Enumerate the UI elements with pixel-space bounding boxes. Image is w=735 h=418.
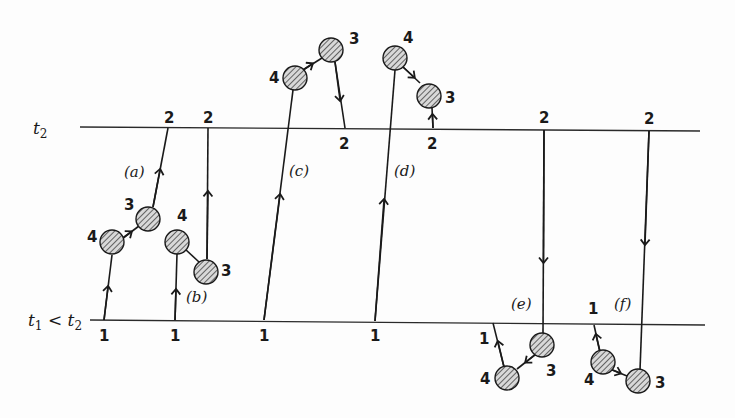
diagram-label-e: (e) [511,295,532,313]
vertex-4-label: 4 [403,29,413,47]
t1-lt-t2-label: t1 < t2 [28,310,82,333]
vertex-4-blob [165,230,189,254]
vertex-3-label: 3 [546,362,556,380]
vertex-4-blob [100,230,124,254]
vertex-4-blob [591,350,615,374]
diagram-label-f: (f) [614,295,631,313]
vertex-3-blob [319,38,343,62]
vertex-4-blob [495,366,519,390]
vertex-3-label: 3 [349,30,359,48]
diagram-c: 4 3 2 1 (c) [259,30,359,345]
endpoint-1-label: 1 [259,327,269,345]
diagram-e: 4 3 2 1 (e) [479,109,556,390]
diagram-f: 4 3 2 1 (f) [584,110,665,393]
diagram-label-c: (c) [289,162,309,180]
feynman-diagram-figure: t2 t1 < t2 4 3 2 1 (a) 4 3 2 1 (b) [0,0,735,418]
vertex-4-label: 4 [177,207,187,225]
vertex-4-label: 4 [269,69,279,87]
diagram-canvas: t2 t1 < t2 4 3 2 1 (a) 4 3 2 1 (b) [0,0,735,418]
endpoint-2-label: 2 [339,135,349,153]
endpoint-1-label: 1 [479,330,489,348]
vertex-4-blob [283,66,307,90]
endpoint-1-label: 1 [370,327,380,345]
vertex-4-blob [383,46,407,70]
endpoint-2-label: 2 [539,109,549,127]
diagram-label-a: (a) [124,163,145,181]
vertex-3-blob [194,260,218,284]
diagram-a: 4 3 2 1 (a) [87,109,174,345]
t2-label: t2 [33,118,47,141]
diagram-d: 4 3 2 1 (d) [370,29,455,345]
vertex-4-label: 4 [480,370,490,388]
endpoint-1-label: 1 [99,327,109,345]
endpoint-2-label: 2 [644,110,654,128]
vertex-4-label: 4 [584,371,594,389]
vertex-3-blob [626,369,650,393]
diagram-label-b: (b) [186,288,207,306]
vertex-3-blob [417,84,441,108]
endpoint-2-label: 2 [203,109,213,127]
endpoint-2-label: 2 [427,135,437,153]
vertex-3-label: 3 [655,374,665,392]
diagram-label-d: (d) [394,162,415,180]
time-line-t2: t2 [33,118,700,141]
diagram-b: 4 3 2 1 (b) [165,109,231,345]
vertex-3-label: 3 [445,89,455,107]
endpoint-1-label: 1 [588,300,598,318]
time-line-t1: t1 < t2 [28,310,705,333]
vertex-3-label: 3 [221,262,231,280]
endpoint-1-label: 1 [170,327,180,345]
vertex-3-blob [136,207,160,231]
endpoint-2-label: 2 [164,109,174,127]
vertex-3-blob [530,333,554,357]
vertex-3-label: 3 [124,196,134,214]
vertex-4-label: 4 [87,228,97,246]
